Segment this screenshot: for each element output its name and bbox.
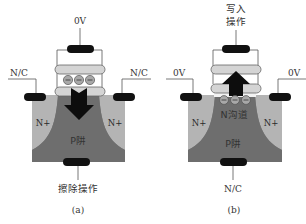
n-plus-right-label: N+ — [108, 118, 123, 128]
gate-contact — [67, 45, 94, 53]
gate-contact — [222, 45, 250, 53]
top-voltage-label: 0V — [74, 16, 87, 26]
source-contact — [24, 93, 46, 101]
substrate-contact — [63, 158, 90, 166]
flash-memory-diagram: 0V N/C N/C N+ N+ P阱 擦除操作 (a) — [0, 0, 306, 224]
electrons — [220, 96, 251, 105]
n-channel-label: N沟道 — [220, 109, 247, 120]
p-well-label: P阱 — [70, 135, 86, 146]
n-plus-left-label: N+ — [36, 118, 51, 128]
n-plus-right-label: N+ — [264, 118, 279, 128]
bottom-terminal-label: N/C — [224, 184, 242, 194]
top-label-line1: 写入 — [226, 3, 246, 14]
right-terminal-label: N/C — [130, 68, 148, 78]
control-gate-bar — [55, 65, 105, 74]
operation-label: 擦除操作 — [58, 183, 98, 194]
left-terminal-label: N/C — [10, 68, 28, 78]
n-plus-left-label: N+ — [192, 118, 207, 128]
drain-contact — [113, 93, 135, 101]
top-label-line2: 操作 — [226, 16, 246, 27]
source-contact — [180, 93, 202, 101]
left-terminal-label: 0V — [173, 68, 186, 78]
electrons — [63, 75, 94, 84]
right-terminal-label: 0V — [288, 68, 301, 78]
panel-caption: (a) — [72, 205, 84, 215]
substrate-contact — [220, 158, 247, 166]
drain-contact — [269, 93, 291, 101]
panel-a-erase: 0V N/C N/C N+ N+ P阱 擦除操作 (a) — [8, 16, 151, 215]
p-well-label: P阱 — [225, 138, 241, 149]
panel-b-write: 写入 操作 0V 0V N沟道 N+ N+ P阱 N/C (b) — [166, 3, 306, 215]
panel-caption: (b) — [228, 205, 241, 215]
